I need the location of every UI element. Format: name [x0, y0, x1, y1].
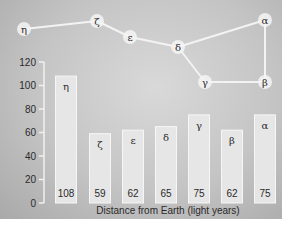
bar: [56, 76, 77, 203]
constellation-line: [24, 21, 97, 29]
y-tick-label: 100: [19, 80, 36, 91]
y-tick-label: 40: [25, 151, 37, 162]
bar-category-label: ε: [130, 135, 135, 146]
star-label: β: [262, 77, 268, 88]
x-axis-label: Distance from Earth (light years): [96, 205, 239, 216]
star-label: η: [21, 24, 27, 35]
star-label: γ: [202, 77, 208, 88]
bar-value-label: 75: [193, 188, 205, 199]
bar-category-label: β: [229, 135, 235, 146]
bar-value-label: 62: [127, 188, 139, 199]
bar-value-label: 65: [160, 188, 172, 199]
star-label: ε: [127, 32, 132, 43]
star-label: δ: [175, 42, 181, 53]
star-label: ζ: [94, 16, 100, 27]
bar-value-label: 75: [259, 188, 271, 199]
chart-panel: ηζεδγβα020406080100120η108ζ59ε62δ65γ75β6…: [0, 0, 282, 219]
y-tick-label: 120: [19, 57, 36, 68]
y-tick-label: 60: [25, 127, 37, 138]
bar-category-label: α: [262, 120, 269, 131]
bar-value-label: 108: [58, 188, 75, 199]
bar-value-label: 62: [226, 188, 238, 199]
y-tick-label: 20: [25, 174, 37, 185]
bar-category-label: ζ: [97, 139, 103, 150]
y-tick-label: 80: [25, 104, 37, 115]
y-tick-label: 0: [30, 198, 36, 209]
bar-category-label: γ: [196, 120, 202, 131]
star-label: α: [262, 15, 269, 26]
constellation-line: [178, 20, 265, 47]
bar-chart: ηζεδγβα020406080100120η108ζ59ε62δ65γ75β6…: [0, 0, 282, 219]
bar-category-label: η: [63, 81, 69, 92]
constellation-line: [130, 37, 178, 47]
bar-category-label: δ: [163, 132, 169, 143]
bar-value-label: 59: [94, 188, 106, 199]
